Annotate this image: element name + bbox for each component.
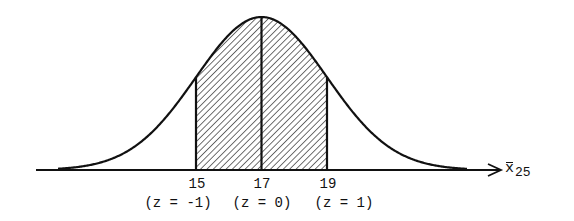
axis-label-xbar-25: x25 [505, 160, 531, 180]
axis-subscript: 25 [515, 165, 531, 180]
tick-label-15: 15 [189, 176, 206, 192]
distribution-graphic [0, 0, 574, 221]
tick-label-19: 19 [320, 176, 337, 192]
z-label-minus-1: (z = -1) [144, 195, 211, 211]
z-label-0: (z = 0) [233, 195, 292, 211]
normal-distribution-figure: 15 17 19 (z = -1) (z = 0) (z = 1) x25 [0, 0, 574, 221]
tick-label-17: 17 [254, 176, 271, 192]
axis-variable: x [505, 160, 514, 177]
z-label-1: (z = 1) [315, 195, 374, 211]
